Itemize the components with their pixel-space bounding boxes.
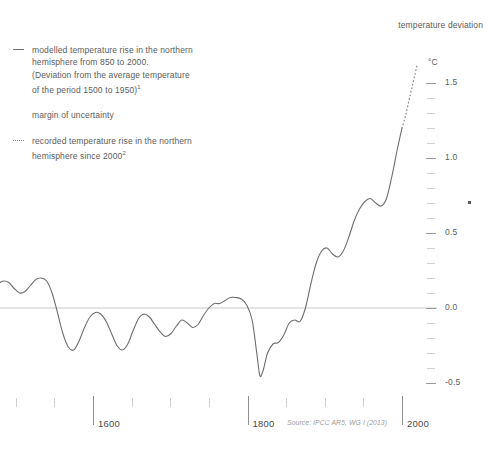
y-axis-minor-tick: [427, 368, 435, 369]
y-axis-major-tick: [426, 233, 436, 234]
y-axis-minor-tick: [427, 203, 435, 204]
y-axis-minor-tick: [427, 323, 435, 324]
x-axis-minor-tick: [209, 398, 210, 407]
y-axis-minor-tick: [427, 173, 435, 174]
y-axis-minor-tick: [427, 218, 435, 219]
y-axis-minor-tick: [427, 188, 435, 189]
y-axis-major-tick: [426, 308, 436, 309]
x-axis-minor-tick: [325, 398, 326, 407]
x-axis-minor-tick: [54, 398, 55, 407]
y-axis-minor-tick: [427, 248, 435, 249]
y-axis-tick-label: 0.0: [445, 302, 457, 312]
chart-plot-area: [0, 0, 499, 455]
y-axis-minor-tick: [427, 338, 435, 339]
climate-chart-figure: modelled temperature rise in the norther…: [0, 0, 499, 455]
y-axis-tick-label: 0.5: [445, 227, 457, 237]
x-axis-minor-tick: [363, 398, 364, 407]
x-axis-tick-label: 1800: [253, 418, 275, 429]
y-axis-minor-tick: [427, 98, 435, 99]
y-axis-minor-tick: [427, 278, 435, 279]
series-line-recorded: [402, 64, 417, 129]
y-axis-major-tick: [426, 383, 436, 384]
x-axis-minor-tick: [170, 398, 171, 407]
series-line-modelled: [0, 128, 402, 377]
y-axis-major-tick: [426, 83, 436, 84]
y-axis-minor-tick: [427, 143, 435, 144]
y-axis-minor-tick: [427, 263, 435, 264]
x-axis-major-tick: [248, 396, 249, 425]
x-axis-minor-tick: [286, 398, 287, 407]
x-axis-tick-label: 2000: [407, 418, 429, 429]
x-axis-major-tick: [93, 396, 94, 425]
y-axis-tick-label: -0.5: [445, 377, 460, 387]
x-axis-minor-tick: [16, 398, 17, 407]
y-axis-major-tick: [426, 158, 436, 159]
x-axis-minor-tick: [132, 398, 133, 407]
y-axis-minor-tick: [427, 293, 435, 294]
y-axis-minor-tick: [427, 353, 435, 354]
y-axis-tick-label: 1.0: [445, 152, 457, 162]
x-axis-tick-label: 1600: [98, 418, 120, 429]
y-axis-minor-tick: [427, 113, 435, 114]
y-axis-tick-label: 1.5: [445, 77, 457, 87]
x-axis-major-tick: [402, 396, 403, 425]
y-axis-minor-tick: [427, 128, 435, 129]
